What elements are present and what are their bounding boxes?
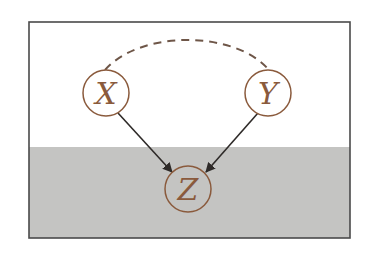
node-x: X [83, 70, 129, 116]
causal-diagram: X Y Z [0, 0, 370, 253]
frame-top-background [29, 22, 350, 147]
node-z-label: Z [177, 172, 200, 207]
node-x-label: X [93, 76, 118, 111]
node-z: Z [165, 166, 211, 212]
node-y-label: Y [258, 76, 281, 111]
node-y: Y [245, 70, 291, 116]
